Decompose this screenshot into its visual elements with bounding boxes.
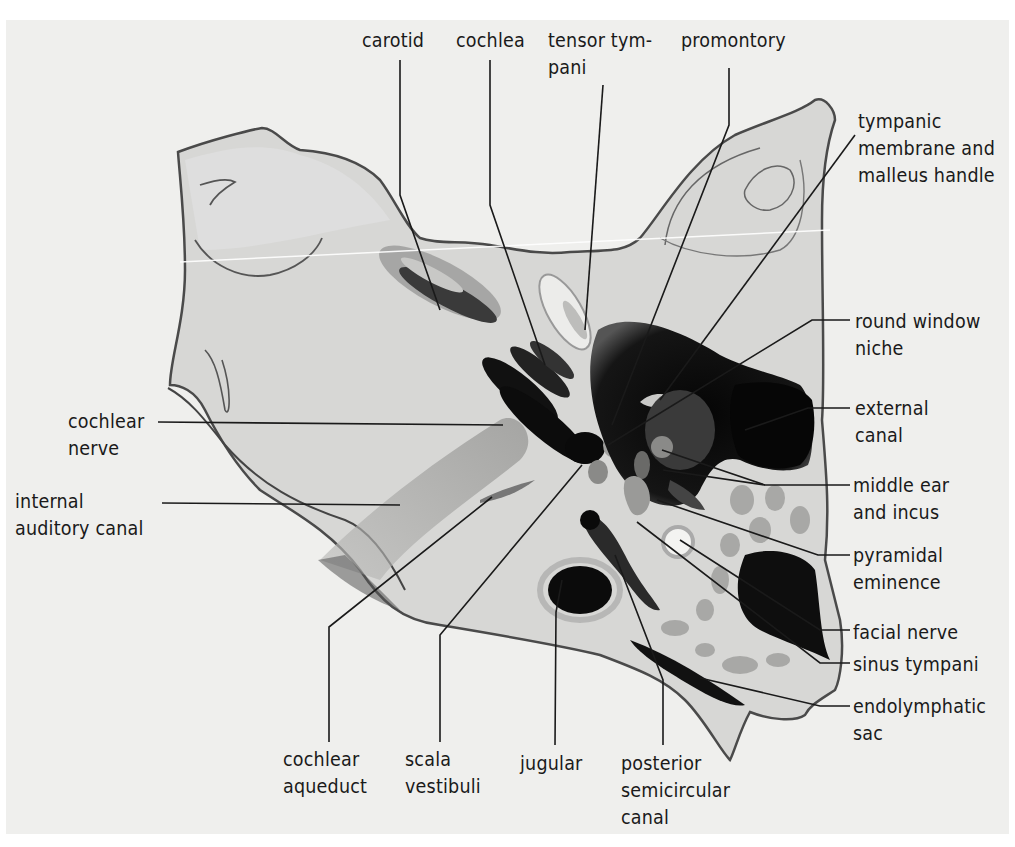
label-line: cochlea [456, 27, 525, 54]
label-line: aqueduct [283, 773, 367, 800]
label-facial-nerve: facial nerve [853, 619, 958, 646]
label-external-canal: externalcanal [855, 395, 929, 449]
label-line: sinus tympani [853, 651, 979, 678]
label-line: canal [621, 804, 730, 831]
label-round-window: round windowniche [855, 308, 980, 362]
label-line: carotid [362, 27, 424, 54]
label-line: middle ear [853, 472, 949, 499]
label-line: cochlear [68, 408, 144, 435]
label-pyramidal: pyramidaleminence [853, 542, 943, 596]
label-scala-vestibuli: scalavestibuli [405, 746, 481, 800]
label-cochlear-nerve: cochlearnerve [68, 408, 144, 462]
label-carotid: carotid [362, 27, 424, 54]
label-line: and incus [853, 499, 949, 526]
label-line: canal [855, 422, 929, 449]
label-line: malleus handle [858, 162, 995, 189]
label-line: vestibuli [405, 773, 481, 800]
label-line: round window [855, 308, 980, 335]
label-tympanic-membrane: tympanicmembrane andmalleus handle [858, 108, 995, 189]
label-middle-ear-incus: middle earand incus [853, 472, 949, 526]
label-line: eminence [853, 569, 943, 596]
incus-body [645, 390, 715, 470]
label-line: auditory canal [15, 515, 144, 542]
incus-process [651, 436, 673, 458]
label-line: external [855, 395, 929, 422]
label-line: membrane and [858, 135, 995, 162]
facial-nerve-shape [663, 527, 693, 557]
label-line: endolymphatic [853, 693, 986, 720]
label-line: tympanic [858, 108, 995, 135]
label-line: jugular [520, 750, 583, 777]
label-line: promontory [681, 27, 786, 54]
label-cochlea: cochlea [456, 27, 525, 54]
label-line: cochlear [283, 746, 367, 773]
label-line: scala [405, 746, 481, 773]
label-internal-canal: internalauditory canal [15, 488, 144, 542]
label-jugular: jugular [520, 750, 583, 777]
label-line: posterior [621, 750, 730, 777]
label-line: pyramidal [853, 542, 943, 569]
label-line: internal [15, 488, 144, 515]
label-line: tensor tym- [548, 27, 652, 54]
label-line: nerve [68, 435, 144, 462]
label-line: niche [855, 335, 980, 362]
label-promontory: promontory [681, 27, 786, 54]
label-line: pani [548, 54, 652, 81]
external-canal-shape [730, 382, 814, 468]
label-cochlear-aqueduct: cochlearaqueduct [283, 746, 367, 800]
label-line: semicircular [621, 777, 730, 804]
label-line: sac [853, 720, 986, 747]
label-tensor-tympani: tensor tym-pani [548, 27, 652, 81]
label-line: facial nerve [853, 619, 958, 646]
label-sinus-tympani: sinus tympani [853, 651, 979, 678]
label-endolymphatic: endolymphaticsac [853, 693, 986, 747]
label-posterior-canal: posteriorsemicircularcanal [621, 750, 730, 831]
